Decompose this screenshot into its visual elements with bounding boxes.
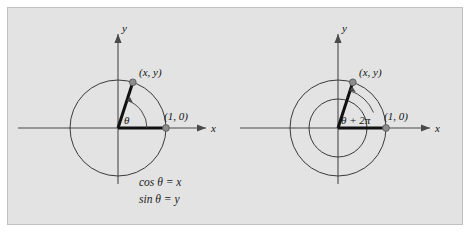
formula-cos: cos θ = x <box>139 174 181 191</box>
terminal-point-dot <box>349 79 356 86</box>
x-axis <box>240 124 430 131</box>
angle-label: θ <box>124 114 130 126</box>
angle-arc <box>350 87 374 113</box>
y-axis <box>334 34 341 184</box>
x-axis-label: x <box>434 122 440 134</box>
angle-label: θ + 2π <box>341 114 371 126</box>
reference-point-dot <box>163 125 170 132</box>
figure-frame: x y (x, y) (1, 0) θ cos θ = x sin θ = y <box>7 7 463 225</box>
terminal-point-label: (x, y) <box>359 66 382 79</box>
x-axis <box>18 124 206 131</box>
panel-unit-circle-theta-plus-two-pi: x y (x, y) (1, 0) θ + 2π cos (θ + 2π) = … <box>234 8 462 224</box>
panel-unit-circle-theta: x y (x, y) (1, 0) θ cos θ = x sin θ = y <box>8 8 236 224</box>
reference-point-dot <box>383 125 390 132</box>
terminal-point-label: (x, y) <box>139 66 162 79</box>
reference-point-label: (1, 0) <box>384 110 408 123</box>
terminal-point-dot <box>129 79 136 86</box>
formula-sin: sin θ = y <box>139 191 181 208</box>
reference-point-label: (1, 0) <box>164 110 188 123</box>
formulas-theta: cos θ = x sin θ = y <box>139 174 181 207</box>
y-axis-label: y <box>341 22 347 34</box>
y-axis <box>114 34 121 184</box>
x-axis-label: x <box>210 122 216 134</box>
diagram-theta-plus-two-pi: x y (x, y) (1, 0) θ + 2π <box>234 8 462 224</box>
diagram-theta: x y (x, y) (1, 0) θ <box>8 8 236 224</box>
angle-arc <box>127 97 147 128</box>
y-axis-label: y <box>121 22 127 34</box>
